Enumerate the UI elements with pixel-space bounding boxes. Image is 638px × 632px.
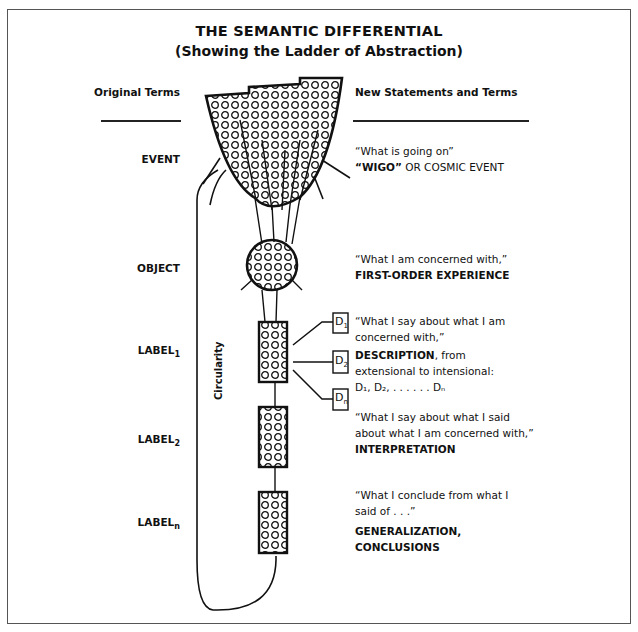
description-d1-label: D1: [335, 315, 348, 330]
label-2-box-icon: [259, 407, 287, 467]
object-circle-icon: [241, 240, 302, 290]
description-dn-label: Dn: [335, 391, 348, 406]
description-d2-label: D2: [335, 354, 348, 369]
event-cone-icon: [203, 78, 350, 210]
label-1-box-icon: [259, 322, 287, 382]
ladder-of-abstraction-drawing: [0, 0, 638, 632]
label-n-box-icon: [259, 492, 287, 553]
circularity-loop: [197, 170, 218, 610]
